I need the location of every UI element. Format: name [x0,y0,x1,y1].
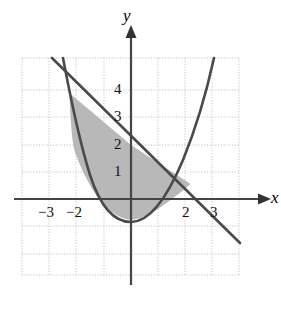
x-tick-label-3: 3 [210,205,218,220]
x-tick-label-2: 2 [182,205,190,220]
figure-container: y x −3 −2 2 3 4 3 2 1 [0,0,281,310]
y-tick-label-4: 4 [114,82,122,97]
x-tick-label-neg2: −2 [66,205,82,220]
y-tick-label-1: 1 [114,164,122,179]
x-tick-label-neg3: −3 [38,205,54,220]
x-axis-label: x [271,188,279,208]
y-tick-label-2: 2 [114,137,122,152]
y-tick-label-3: 3 [114,109,122,124]
coordinate-plot [0,0,281,310]
y-axis-label: y [123,6,131,26]
